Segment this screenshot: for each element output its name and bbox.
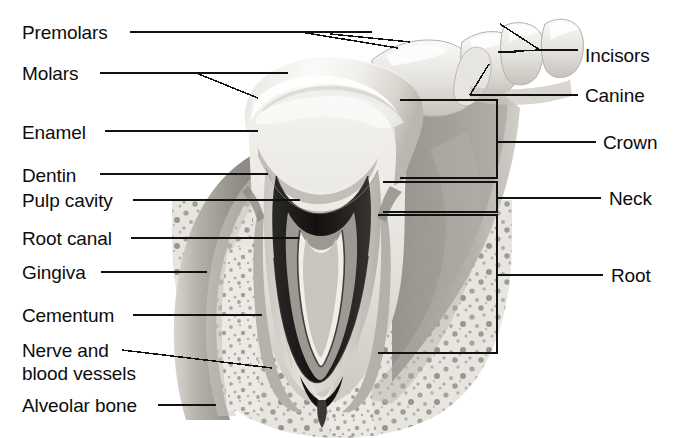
- label-nerve-and-blood-vessels-line1: Nerve and: [22, 340, 109, 361]
- tooth-anatomy-figure: Premolars Molars Enamel Dentin Pulp cavi…: [0, 0, 676, 438]
- label-crown: Crown: [603, 132, 657, 153]
- label-cementum: Cementum: [22, 305, 114, 326]
- label-alveolar-bone: Alveolar bone: [22, 395, 137, 416]
- label-premolars: Premolars: [22, 22, 108, 43]
- label-canine: Canine: [585, 85, 645, 106]
- label-incisors: Incisors: [585, 45, 650, 66]
- label-dentin: Dentin: [22, 165, 76, 186]
- label-root: Root: [611, 265, 651, 286]
- label-root-canal: Root canal: [22, 228, 112, 249]
- label-nerve-and-blood-vessels-line2: blood vessels: [22, 363, 136, 384]
- label-enamel: Enamel: [22, 122, 86, 143]
- label-gingiva: Gingiva: [22, 262, 86, 283]
- label-pulp-cavity: Pulp cavity: [22, 190, 113, 211]
- label-molars: Molars: [22, 63, 78, 84]
- label-neck: Neck: [609, 188, 652, 209]
